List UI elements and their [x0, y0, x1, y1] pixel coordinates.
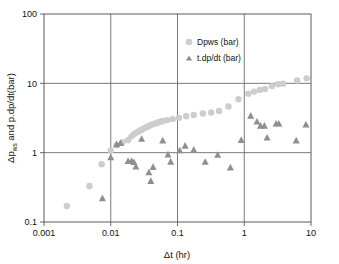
data-point [264, 134, 271, 141]
data-point [253, 118, 260, 125]
data-point [164, 117, 170, 123]
data-point [182, 142, 189, 149]
data-point [86, 183, 92, 189]
series-dpws [64, 75, 310, 209]
data-point [202, 158, 209, 165]
data-point [98, 161, 104, 167]
data-point [200, 110, 206, 116]
data-point [227, 164, 234, 171]
data-point [208, 109, 214, 115]
data-point [280, 80, 286, 86]
data-point [225, 103, 231, 109]
data-point [216, 108, 222, 114]
data-point [190, 146, 197, 153]
data-point [262, 86, 268, 92]
data-point [170, 116, 176, 122]
data-point [176, 115, 182, 121]
data-point [159, 137, 166, 144]
x-tick-label: 0.1 [171, 228, 184, 238]
data-point [164, 151, 171, 158]
data-point [303, 75, 309, 81]
chart-container: 0.0010.010.1110 0.1110100 Δt (hr) Δpws a… [0, 0, 339, 264]
data-point [138, 135, 145, 142]
y-axis-title-pre: Δp [5, 151, 16, 163]
data-point [238, 136, 245, 143]
x-axis-title: Δt (hr) [164, 249, 190, 260]
data-point [269, 83, 275, 89]
legend-marker-tdpdt [186, 56, 192, 61]
data-point [191, 112, 197, 118]
data-point [167, 158, 174, 165]
data-point [99, 195, 106, 202]
y-tick-label: 0.1 [24, 217, 37, 227]
legend-label-tdpdt: t.dp/dt (bar) [197, 53, 241, 63]
data-points [64, 75, 310, 209]
legend-label-dpws: Dpws (bar) [197, 37, 239, 47]
data-point [302, 121, 309, 128]
data-point [64, 203, 70, 209]
x-tick-label: 1 [242, 228, 247, 238]
series-tdpdt [99, 112, 310, 201]
y-axis-tick-labels: 0.1110100 [22, 9, 37, 227]
data-point [183, 113, 189, 119]
y-axis-title-post: and p.dp/dt(bar) [5, 73, 16, 143]
y-tick-label: 1 [32, 148, 37, 158]
data-point [247, 112, 254, 119]
y-tick-label: 10 [27, 79, 37, 89]
y-tick-label: 100 [22, 9, 37, 19]
svg-text:Δpws and p.dp/dt(bar): Δpws and p.dp/dt(bar) [5, 73, 18, 163]
legend-marker-dpws [186, 39, 193, 46]
x-tick-label: 0.001 [33, 228, 56, 238]
x-tick-label: 10 [306, 228, 316, 238]
data-point [245, 90, 251, 96]
data-point [251, 88, 257, 94]
data-point [293, 137, 300, 144]
x-tick-label: 0.01 [102, 228, 120, 238]
y-axis-title: Δpws and p.dp/dt(bar) [5, 73, 18, 163]
data-point [150, 163, 157, 170]
data-point [235, 96, 241, 102]
data-point [147, 177, 154, 184]
data-point [108, 147, 114, 153]
legend: Dpws (bar) t.dp/dt (bar) [186, 37, 241, 63]
data-point [256, 87, 262, 93]
scatter-plot: 0.0010.010.1110 0.1110100 Δt (hr) Δpws a… [0, 0, 339, 264]
data-point [214, 151, 221, 158]
x-axis-tick-labels: 0.0010.010.1110 [33, 228, 316, 238]
data-point [107, 154, 114, 161]
data-point [294, 77, 300, 83]
